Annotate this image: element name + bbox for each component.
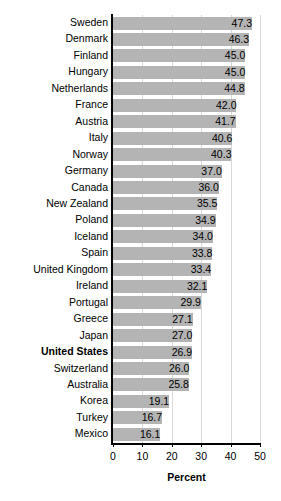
bar-row: Hungary45.0 <box>0 64 281 80</box>
bar-value-label: 26.9 <box>113 346 195 359</box>
bar-value-label: 35.5 <box>113 197 220 210</box>
x-tick-mark-20 <box>172 443 173 447</box>
category-label: Hungary <box>3 65 108 78</box>
category-label: France <box>3 98 108 111</box>
bar-row: Norway40.3 <box>0 147 281 163</box>
bar-value-label: 40.6 <box>113 132 235 145</box>
x-tick-mark-50 <box>260 443 261 447</box>
bar-row: Spain33.8 <box>0 245 281 261</box>
category-label: New Zealand <box>3 197 108 210</box>
bar-value-label: 16.1 <box>113 428 163 441</box>
bar-row: New Zealand35.5 <box>0 196 281 212</box>
bar-row: Japan27.0 <box>0 328 281 344</box>
bar-track: 44.8 <box>113 82 260 95</box>
bar-track: 29.9 <box>113 296 260 309</box>
bar-value-label: 34.9 <box>113 214 219 227</box>
bar-track: 32.1 <box>113 280 260 293</box>
category-label: Switzerland <box>3 362 108 375</box>
bar-track: 34.9 <box>113 214 260 227</box>
bar-value-label: 26.0 <box>113 362 192 375</box>
category-label: Finland <box>3 49 108 62</box>
bar-row: Turkey16.7 <box>0 410 281 426</box>
bar-row: Mexico16.1 <box>0 426 281 442</box>
bar-value-label: 37.0 <box>113 165 225 178</box>
category-label: United Kingdom <box>3 263 108 276</box>
bar-track: 45.0 <box>113 49 260 62</box>
bar-track: 34.0 <box>113 230 260 243</box>
category-label: Italy <box>3 131 108 144</box>
bar-track: 40.6 <box>113 132 260 145</box>
bar-value-label: 41.7 <box>113 115 239 128</box>
category-label: Poland <box>3 213 108 226</box>
bar-row: Canada36.0 <box>0 180 281 196</box>
category-label: Norway <box>3 148 108 161</box>
x-tick-label-10: 10 <box>127 450 157 463</box>
x-tick-label-40: 40 <box>216 450 246 463</box>
bar-track: 26.0 <box>113 362 260 375</box>
category-label: Mexico <box>3 427 108 440</box>
bar-value-label: 34.0 <box>113 230 216 243</box>
category-label: Iceland <box>3 230 108 243</box>
bar-track: 19.1 <box>113 395 260 408</box>
bar-row: Sweden47.3 <box>0 15 281 31</box>
x-tick-mark-40 <box>231 443 232 447</box>
bar-track: 35.5 <box>113 197 260 210</box>
bar-track: 40.3 <box>113 148 260 161</box>
bar-value-label: 42.0 <box>113 99 239 112</box>
category-label: Greece <box>3 312 108 325</box>
category-label: Portugal <box>3 296 108 309</box>
bar-row: Greece27.1 <box>0 311 281 327</box>
category-label: Ireland <box>3 279 108 292</box>
bar-row: United States26.9 <box>0 344 281 360</box>
category-label: Turkey <box>3 411 108 424</box>
bar-row: Austria41.7 <box>0 114 281 130</box>
bar-row: Ireland32.1 <box>0 278 281 294</box>
bar-row: Finland45.0 <box>0 48 281 64</box>
bar-value-label: 47.3 <box>113 17 255 30</box>
category-label: Australia <box>3 378 108 391</box>
bar-track: 36.0 <box>113 181 260 194</box>
bar-value-label: 36.0 <box>113 181 222 194</box>
bar-value-label: 25.8 <box>113 378 192 391</box>
bar-track: 27.1 <box>113 313 260 326</box>
bar-value-label: 44.8 <box>113 82 248 95</box>
bar-row: Korea19.1 <box>0 393 281 409</box>
bar-track: 46.3 <box>113 33 260 46</box>
bar-row: Australia25.8 <box>0 377 281 393</box>
category-label: Netherlands <box>3 82 108 95</box>
x-tick-mark-0 <box>113 443 114 447</box>
x-tick-mark-10 <box>142 443 143 447</box>
category-label: Spain <box>3 246 108 259</box>
bar-track: 42.0 <box>113 99 260 112</box>
category-label: Japan <box>3 329 108 342</box>
category-label: Denmark <box>3 32 108 45</box>
bar-value-label: 32.1 <box>113 280 210 293</box>
bar-value-label: 16.7 <box>113 411 165 424</box>
bar-row: Portugal29.9 <box>0 295 281 311</box>
bar-value-label: 46.3 <box>113 33 252 46</box>
bar-value-label: 27.0 <box>113 329 195 342</box>
category-label: Austria <box>3 115 108 128</box>
bar-row: Italy40.6 <box>0 130 281 146</box>
bar-row: Denmark46.3 <box>0 31 281 47</box>
bar-track: 41.7 <box>113 115 260 128</box>
bar-value-label: 45.0 <box>113 49 248 62</box>
bar-row: Poland34.9 <box>0 212 281 228</box>
bar-track: 33.4 <box>113 263 260 276</box>
bar-row: Netherlands44.8 <box>0 81 281 97</box>
category-label: Sweden <box>3 16 108 29</box>
bar-track: 33.8 <box>113 247 260 260</box>
bar-track: 45.0 <box>113 66 260 79</box>
bar-value-label: 19.1 <box>113 395 172 408</box>
bar-track: 37.0 <box>113 165 260 178</box>
category-label: Canada <box>3 181 108 194</box>
bar-rows: Sweden47.3Denmark46.3Finland45.0Hungary4… <box>0 15 281 443</box>
x-tick-mark-30 <box>201 443 202 447</box>
category-label: Germany <box>3 164 108 177</box>
bar-row: France42.0 <box>0 97 281 113</box>
bar-track: 16.7 <box>113 411 260 424</box>
x-tick-label-0: 0 <box>98 450 128 463</box>
bar-track: 27.0 <box>113 329 260 342</box>
bar-value-label: 40.3 <box>113 148 234 161</box>
bar-value-label: 33.4 <box>113 263 214 276</box>
